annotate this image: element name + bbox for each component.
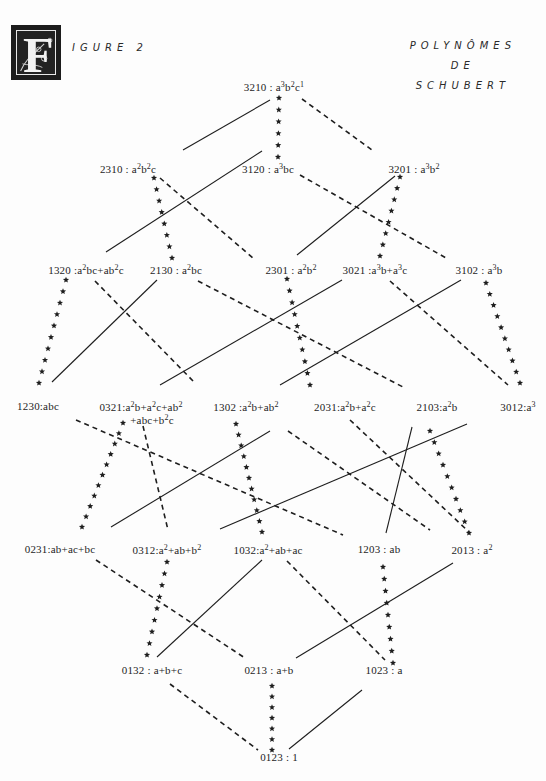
star-icon <box>292 311 298 317</box>
star-icon <box>104 461 110 467</box>
star-icon <box>112 441 118 447</box>
node-2103: 2103:a2b <box>416 400 457 413</box>
star-icon <box>380 564 386 570</box>
title-line-2: DE <box>410 56 516 76</box>
star-icon <box>502 335 508 341</box>
edge-stars <box>151 175 175 261</box>
star-icon <box>284 276 290 282</box>
star-icon <box>42 357 48 363</box>
star-icon <box>389 648 395 654</box>
star-icon <box>151 175 157 181</box>
node-3210: 3210 : a3b2c1 <box>244 80 304 93</box>
star-icon <box>246 475 252 481</box>
star-icon <box>269 693 275 699</box>
page: F IGURE 2 POLYNÔMES DE SCHUBERT 3210 : a… <box>0 0 546 781</box>
diagram-title: POLYNÔMES DE SCHUBERT <box>410 36 516 96</box>
star-icon <box>377 253 383 259</box>
edge-solid <box>52 280 157 382</box>
edge-stars <box>233 421 265 535</box>
star-icon <box>91 493 97 499</box>
edge-dashed <box>390 281 508 385</box>
star-icon <box>149 629 155 635</box>
edge-stars <box>36 277 69 386</box>
edge-dashed <box>170 684 258 750</box>
star-icon <box>156 594 162 600</box>
star-icon <box>156 198 162 204</box>
star-icon <box>166 243 172 249</box>
node-1023: 1023 : a <box>365 664 402 676</box>
edge-dashed <box>160 178 253 258</box>
star-icon <box>60 288 66 294</box>
node-1320: 1320 :a2bc+ab2c <box>48 263 124 276</box>
star-icon <box>457 507 463 513</box>
star-icon <box>302 358 308 364</box>
star-icon <box>269 725 275 731</box>
edge-solid <box>296 563 453 658</box>
star-icon <box>449 484 455 490</box>
star-icon <box>386 624 392 630</box>
node-0213: 0213 : a+b <box>244 664 293 676</box>
edge-dashed <box>76 420 343 535</box>
star-icon <box>427 428 433 434</box>
star-icon <box>487 291 493 297</box>
edge-stars <box>483 280 523 386</box>
star-icon <box>241 453 247 459</box>
star-icon <box>256 518 262 524</box>
node-1203: 1203 : ab <box>358 543 401 555</box>
edge-dashed <box>95 281 195 383</box>
edge-solid <box>220 424 467 529</box>
node-0312: 0312:a2+ab+b2 <box>133 543 202 556</box>
star-icon <box>48 334 54 340</box>
star-icon <box>509 358 515 364</box>
node-3120: 3120 : a3bc <box>242 162 294 175</box>
star-icon <box>387 636 393 642</box>
star-icon <box>440 462 446 468</box>
star-icon <box>506 346 512 352</box>
edge-solid <box>386 427 412 533</box>
node-2013: 2013 : a2 <box>451 543 492 556</box>
node-2301: 2301 : a2b2 <box>265 263 316 276</box>
star-icon <box>269 715 275 721</box>
drop-cap-ornament-icon: F <box>11 25 61 80</box>
node-3021: 3021 :a3b+a3c <box>343 263 408 276</box>
star-icon <box>116 430 122 436</box>
star-icon <box>144 652 150 658</box>
star-icon <box>431 439 437 445</box>
star-icon <box>146 640 152 646</box>
edge-stars <box>144 559 170 658</box>
star-icon <box>269 736 275 742</box>
star-icon <box>394 185 400 191</box>
star-icon <box>275 142 281 148</box>
star-icon <box>491 302 497 308</box>
star-icon <box>164 232 170 238</box>
star-icon <box>276 107 282 113</box>
node-0132: 0132 : a+b+c <box>122 664 183 676</box>
edge-solid <box>280 280 461 385</box>
star-icon <box>51 323 57 329</box>
star-icon <box>87 503 93 509</box>
node-3012: 3012:a3 <box>500 400 535 413</box>
star-icon <box>289 299 295 305</box>
star-icon <box>249 486 255 492</box>
star-icon <box>243 464 249 470</box>
star-icon <box>483 280 489 286</box>
node-0231: 0231:ab+ac+bc <box>25 543 96 555</box>
star-icon <box>57 300 63 306</box>
star-icon <box>54 311 60 317</box>
star-icon <box>494 313 500 319</box>
star-icon <box>45 345 51 351</box>
star-icon <box>259 529 265 535</box>
star-icon <box>275 154 281 160</box>
star-icon <box>287 288 293 294</box>
star-icon <box>381 576 387 582</box>
node-2031: 2031:a2b+a2c <box>314 400 376 413</box>
star-icon <box>294 323 300 329</box>
star-icon <box>269 704 275 710</box>
star-icon <box>159 582 165 588</box>
star-icon <box>151 617 157 623</box>
star-icon <box>63 277 69 283</box>
star-icon <box>161 221 167 227</box>
star-icon <box>466 530 472 536</box>
title-line-1: POLYNÔMES <box>410 36 516 56</box>
star-icon <box>83 513 89 519</box>
